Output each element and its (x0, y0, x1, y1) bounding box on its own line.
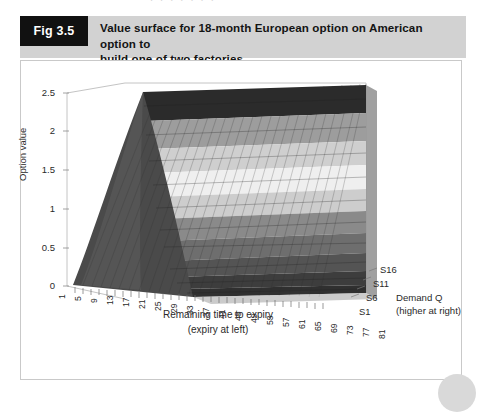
figure-number-tag: Fig 3.5 (20, 16, 88, 46)
series-label-s1: S1 (359, 306, 370, 317)
x-axis-caption-line-1: Remaining time to expiry (163, 309, 273, 320)
surface-mesh (73, 84, 377, 304)
y-tick-label: 0 (29, 280, 55, 291)
x-tick-label: 5 (73, 296, 83, 301)
depth-axis-caption: Demand Q (higher at right) (396, 291, 481, 317)
x-axis-caption: Remaining time to expiry (expiry at left… (113, 307, 323, 337)
x-axis-caption-line-2: (expiry at left) (188, 324, 249, 335)
y-tick-label: 1 (29, 203, 55, 214)
series-label-s6: S6 (366, 292, 377, 303)
x-tick-label: 73 (345, 325, 355, 335)
y-axis-ticks (63, 93, 69, 286)
x-tick-label: 81 (377, 329, 387, 339)
y-tick-label: 2.5 (29, 87, 55, 98)
depth-axis-caption-line-1: Demand Q (396, 292, 442, 303)
figure-title-line-1: Value surface for 18-month European opti… (100, 21, 423, 50)
x-tick-label: 77 (361, 327, 371, 337)
y-axis-label: Option value (17, 128, 28, 181)
scan-artifact-top: . . . . . . : (0, 0, 481, 9)
surface-right-face (366, 85, 377, 299)
y-tick-label: 0.5 (29, 242, 55, 253)
x-tick-label: 1 (57, 294, 67, 299)
scan-artifact-text: . . . . . . : (150, 0, 216, 3)
y-tick-label: 2 (29, 125, 55, 136)
depth-axis-caption-line-2: (higher at right) (396, 305, 461, 316)
figure-header-banner: Fig 3.5 Value surface for 18-month Europ… (20, 16, 466, 58)
y-tick-label: 1.5 (29, 164, 55, 175)
x-tick-label: 69 (329, 323, 339, 333)
series-label-s11: S11 (373, 278, 389, 289)
series-label-s16: S16 (380, 264, 397, 275)
x-tick-label: 13 (105, 295, 115, 305)
chart-frame: Option value 2.5 2 1.5 1 0.5 0 1 5 9 13 … (20, 60, 462, 380)
page-marker-circle (438, 374, 476, 412)
x-tick-label: 9 (89, 298, 99, 303)
x-tick-label: 17 (121, 297, 131, 307)
